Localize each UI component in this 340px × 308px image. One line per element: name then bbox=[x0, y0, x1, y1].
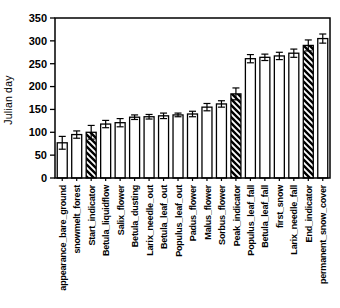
category-label: permanent_snow_cover bbox=[318, 184, 328, 284]
category-label: Betula_liquidflow bbox=[101, 184, 111, 256]
bar bbox=[130, 117, 140, 178]
bar bbox=[245, 59, 255, 178]
category-label: Betula_leaf_out bbox=[159, 185, 169, 249]
y-tick-label: 50 bbox=[35, 149, 47, 161]
y-tick-label: 200 bbox=[29, 80, 47, 92]
bar-chart: Julian day 050100150200250300350appearan… bbox=[0, 0, 340, 308]
y-tick-label: 300 bbox=[29, 35, 47, 47]
bar bbox=[274, 56, 284, 178]
bar bbox=[72, 135, 82, 178]
category-label: End_indicator bbox=[304, 184, 314, 242]
y-tick-label: 350 bbox=[29, 12, 47, 24]
bar bbox=[115, 123, 125, 178]
category-label: Populus_leaf_fall bbox=[246, 185, 256, 256]
category-label: snowmelt_forest bbox=[72, 185, 82, 254]
bar bbox=[318, 39, 328, 178]
bar bbox=[289, 53, 299, 178]
category-label: appearance_bare_ground bbox=[58, 185, 68, 291]
plot-area: 050100150200250300350appearance_bare_gro… bbox=[29, 12, 330, 291]
bar bbox=[173, 115, 183, 178]
category-label: Start_indicator bbox=[87, 184, 97, 245]
bar bbox=[144, 117, 154, 178]
bar bbox=[202, 107, 212, 178]
bar bbox=[101, 124, 111, 178]
y-tick-label: 250 bbox=[29, 58, 47, 70]
hatched-bar bbox=[231, 94, 241, 178]
category-label: Peak_indicator bbox=[232, 184, 242, 246]
category-label: first_snow bbox=[275, 184, 285, 228]
category-label: Betula_dusting bbox=[130, 185, 140, 247]
category-label: Padus_flower bbox=[188, 184, 198, 241]
y-tick-label: 100 bbox=[29, 126, 47, 138]
phenology-bar-chart-figure: Julian day 050100150200250300350appearan… bbox=[0, 0, 340, 308]
y-tick-label: 0 bbox=[41, 172, 47, 184]
category-label: Betula_leaf_fall bbox=[260, 185, 270, 248]
category-label: Larix_needle_out bbox=[145, 185, 155, 256]
category-label: Malus_flower bbox=[203, 184, 213, 239]
hatched-bar bbox=[303, 45, 313, 178]
bar bbox=[159, 116, 169, 178]
bar bbox=[216, 104, 226, 178]
bar bbox=[260, 57, 270, 178]
category-label: Populus_leaf_out bbox=[174, 185, 184, 257]
y-axis-title: Julian day bbox=[2, 75, 14, 125]
y-tick-label: 150 bbox=[29, 103, 47, 115]
category-label: Salix_flower bbox=[116, 184, 126, 235]
category-label: Larix_needle_fall bbox=[289, 185, 299, 255]
category-label: Sorbus_flower bbox=[217, 184, 227, 245]
bar bbox=[188, 114, 198, 178]
